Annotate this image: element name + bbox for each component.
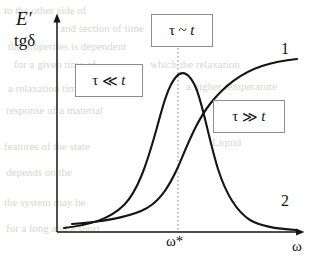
relation-symbol: ≪ <box>99 72 122 90</box>
t-symbol: t <box>121 72 126 89</box>
x-axis-label-omega: ω <box>292 238 302 255</box>
y-axis-label-e-prime: E′ <box>16 8 32 30</box>
annotation-box-tau-much-less-t: τ ≪ t <box>75 64 143 97</box>
curve-1-label: 1 <box>281 40 289 58</box>
relation-symbol: ~ <box>176 22 191 39</box>
t-symbol: t <box>261 108 266 125</box>
x-axis-tick-omega-star: ω* <box>166 233 183 250</box>
y-axis-label-tg-delta: tgδ <box>14 31 35 51</box>
relation-symbol: ≫ <box>239 108 262 126</box>
figure-root: to the other side of and section of time… <box>0 0 322 268</box>
t-symbol: t <box>190 22 195 39</box>
curve-2-label: 2 <box>281 192 289 210</box>
annotation-box-tau-approx-t: τ ~ t <box>151 14 213 47</box>
annotation-box-tau-much-greater-t: τ ≫ t <box>213 100 285 133</box>
